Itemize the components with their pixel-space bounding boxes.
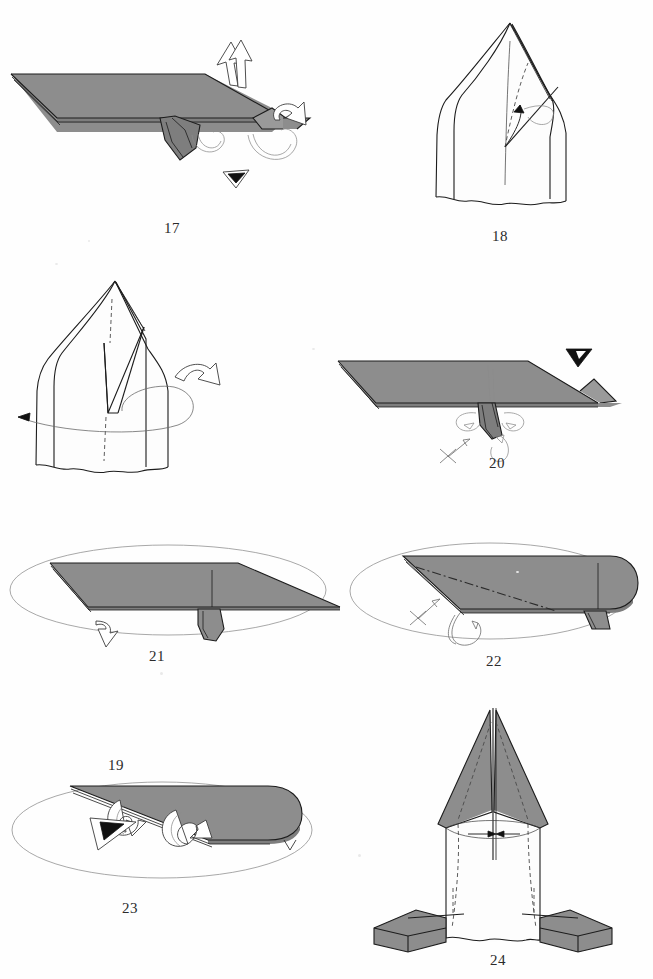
scan-speck	[358, 854, 361, 857]
step-24-figure	[360, 700, 640, 979]
rotate-arrow-head	[18, 413, 30, 421]
step-24-number: 24	[478, 952, 518, 969]
curl-arrow-curve	[452, 613, 481, 645]
step-diagram-23: 23	[0, 760, 340, 920]
wing-right	[494, 710, 548, 828]
step-diagram-19: 19	[0, 265, 250, 515]
step-18-figure	[400, 15, 620, 235]
step-23-number: 23	[110, 900, 150, 917]
turn-over-arrow	[175, 363, 220, 385]
x-mark-arrow-shaft	[418, 599, 440, 619]
reverse-fold-loop-right	[502, 413, 524, 431]
step-20-figure	[330, 335, 630, 475]
x-mark-arrow-shaft	[448, 439, 470, 457]
rotation-guide-curve-2	[253, 134, 291, 155]
step-21-figure	[0, 525, 360, 665]
step-diagram-24: 24	[360, 700, 640, 979]
step-diagram-21: 21	[0, 525, 360, 665]
step-17-number: 17	[152, 220, 192, 237]
scan-speck	[88, 240, 90, 242]
step-22-figure	[320, 525, 653, 670]
x-mark	[410, 611, 426, 625]
paper-top-face	[50, 563, 340, 607]
step-20-number: 20	[477, 455, 517, 472]
step-19-figure	[0, 265, 250, 515]
instruction-page: 17 18	[0, 0, 653, 979]
step-diagram-18: 18	[400, 15, 620, 235]
reverse-fold-head-right	[506, 423, 516, 429]
step-22-number: 22	[474, 653, 514, 670]
step-17-figure	[0, 30, 330, 210]
rotation-guide-curve-4	[198, 134, 221, 148]
curl-arrow-head	[472, 621, 478, 629]
x-mark	[440, 449, 456, 463]
step-18-number: 18	[480, 228, 520, 245]
step-diagram-22: 22	[320, 525, 653, 670]
paper-top-face	[338, 361, 598, 403]
step-21-number: 21	[137, 648, 177, 665]
open-arrow	[96, 621, 118, 647]
reverse-fold-head-left	[464, 423, 474, 429]
paper-hanging-flap	[198, 609, 224, 641]
step-23-figure	[0, 760, 340, 920]
model-silhouette	[36, 281, 168, 473]
paper-right-tip	[598, 403, 622, 407]
step-diagram-17: 17	[0, 30, 330, 210]
scan-speck	[516, 571, 519, 573]
scan-speck	[55, 263, 58, 265]
scan-speck	[160, 672, 163, 675]
step-diagram-20: 20	[330, 335, 630, 475]
scan-speck	[312, 348, 315, 350]
wing-left	[438, 710, 492, 828]
